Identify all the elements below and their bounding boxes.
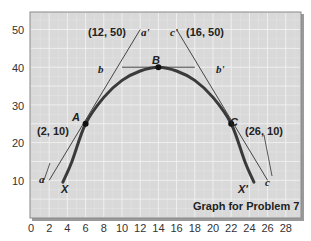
label-x-prime: X' [237,183,248,195]
x-tick: 6 [83,222,89,234]
label-a-prime: a' [141,26,150,38]
coord-label-16-50: (16, 50) [186,26,224,38]
x-tick: 2 [46,222,52,234]
plot-area [30,12,301,218]
x-tick: 16 [170,222,182,234]
label-x: X [60,183,69,195]
label-point-c: C [230,116,239,128]
label-point-a: A [71,111,80,123]
coord-label-2-10: (2, 10) [37,125,69,137]
label-point-b: B [152,54,160,66]
x-tick: 0 [28,222,34,234]
x-tick: 8 [101,222,107,234]
x-tick: 26 [261,222,273,234]
label-b-prime: b' [216,63,225,75]
x-axis-ticks: 0 2 4 6 8 10 12 14 16 18 20 22 24 26 28 [28,222,292,234]
x-tick: 10 [116,222,128,234]
chart: (12, 50) a' c' (16, 50) b b' B A C (2, 1… [0,0,311,241]
y-tick-10: 10 [12,175,24,187]
y-axis-ticks: 50 40 30 20 10 [12,24,24,187]
label-c: c [265,176,270,188]
point-a-marker [83,121,89,127]
y-tick-50: 50 [12,24,24,36]
label-c-prime: c' [170,26,178,38]
label-b: b [98,63,104,75]
x-tick: 4 [64,222,70,234]
y-tick-30: 30 [12,100,24,112]
x-tick: 22 [225,222,237,234]
x-tick: 24 [243,222,255,234]
x-tick: 20 [207,222,219,234]
coord-label-26-10: (26, 10) [245,125,283,137]
x-tick: 12 [134,222,146,234]
label-a: a [39,173,45,185]
x-tick: 28 [280,222,292,234]
chart-caption: Graph for Problem 7 [193,200,299,212]
coord-label-12-50: (12, 50) [88,26,126,38]
y-tick-20: 20 [12,137,24,149]
y-tick-40: 40 [12,62,24,74]
x-tick: 14 [152,222,164,234]
x-tick: 18 [189,222,201,234]
